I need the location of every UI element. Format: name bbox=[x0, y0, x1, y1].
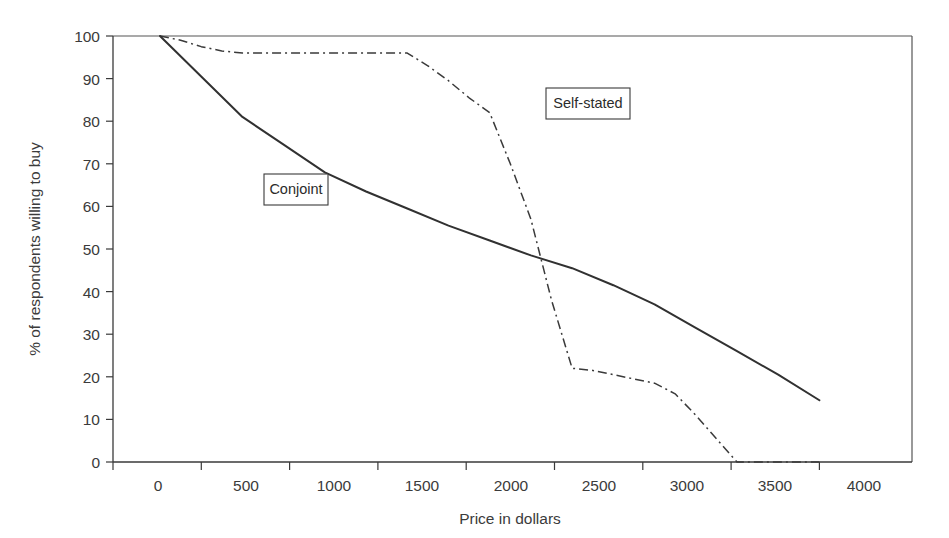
annotation-self-stated: Self-stated bbox=[546, 88, 630, 119]
y-tick-label: 50 bbox=[83, 241, 101, 258]
y-tick-label: 60 bbox=[83, 198, 101, 215]
x-tick-label: 3500 bbox=[758, 477, 793, 494]
series-line-self-stated bbox=[160, 36, 819, 462]
chart-figure: 100 90 80 70 60 50 40 30 20 10 0 0 bbox=[0, 0, 949, 538]
x-tick-label: 500 bbox=[233, 477, 259, 494]
y-tick-label: 0 bbox=[91, 454, 100, 471]
y-tick-label: 30 bbox=[83, 326, 101, 343]
annotation-conjoint: Conjoint bbox=[264, 174, 328, 205]
self-stated-callout-label: Self-stated bbox=[553, 95, 622, 111]
x-axis-ticks bbox=[113, 462, 819, 470]
y-axis-tick-labels: 100 90 80 70 60 50 40 30 20 10 0 bbox=[74, 28, 100, 471]
y-tick-label: 40 bbox=[83, 284, 101, 301]
y-tick-label: 80 bbox=[83, 113, 101, 130]
x-axis-tick-labels: 0 500 1000 1500 2000 2500 3000 3500 4000 bbox=[154, 477, 882, 494]
y-tick-label: 20 bbox=[83, 369, 101, 386]
y-tick-label: 70 bbox=[83, 156, 101, 173]
series-line-conjoint bbox=[160, 36, 819, 400]
y-tick-label: 10 bbox=[83, 411, 101, 428]
x-tick-label: 2000 bbox=[494, 477, 529, 494]
y-axis-title: % of respondents willing to buy bbox=[26, 142, 43, 356]
y-tick-label: 100 bbox=[74, 28, 100, 45]
y-axis-ticks bbox=[106, 36, 113, 462]
x-tick-label: 0 bbox=[154, 477, 163, 494]
x-tick-label: 4000 bbox=[847, 477, 882, 494]
line-chart-svg: 100 90 80 70 60 50 40 30 20 10 0 0 bbox=[0, 0, 949, 538]
x-tick-label: 1000 bbox=[317, 477, 352, 494]
x-tick-label: 3000 bbox=[670, 477, 705, 494]
conjoint-callout-label: Conjoint bbox=[269, 181, 322, 197]
x-axis-title: Price in dollars bbox=[459, 510, 561, 527]
x-tick-label: 1500 bbox=[405, 477, 440, 494]
y-tick-label: 90 bbox=[83, 71, 101, 88]
x-tick-label: 2500 bbox=[582, 477, 617, 494]
